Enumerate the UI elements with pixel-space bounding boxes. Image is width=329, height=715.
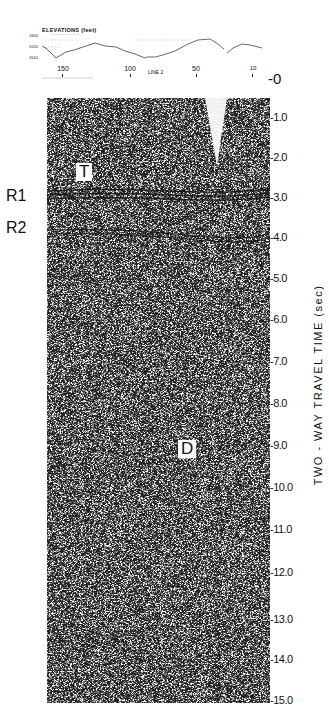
tick-2: -2.0 [270,151,287,163]
reflector-label-r1: R1 [6,187,26,205]
tick-6: -6.0 [270,313,287,325]
seismic-texture [47,98,270,703]
tick-13: -13.0 [270,613,293,625]
shotpoint-label-150: 150 [53,65,73,72]
tick-4: -4.0 [270,231,287,243]
tick-11: -11.0 [270,523,292,535]
marker-t: T [76,163,92,181]
shotpoint-label-100: 100 [120,65,140,72]
zero-time-label: -0 [268,70,281,87]
shotpoint-tick-10 [252,74,253,77]
tick-8: -8.0 [270,397,287,409]
marker-d: D [178,440,196,458]
shotpoint-label-10: 10 [243,65,263,71]
shotpoint-label-50: 50 [186,65,206,72]
tick-7: -7.0 [270,355,287,367]
tick-14: -14.0 [270,653,293,665]
tick-1: -1.0 [270,111,287,123]
line-name-label: LINE 2 [148,69,163,75]
shotpoint-tick-100 [130,74,131,77]
shotpoint-tick-150 [62,74,63,77]
tick-12: -12.0 [270,566,293,578]
tick-15: -15.0 [270,694,293,706]
tick-10: -10.0 [270,481,293,493]
axis-title: TWO - WAY TRAVEL TIME (sec) [312,285,324,486]
tick-3: -3.0 [270,191,287,203]
tick-5: -5.0 [270,272,287,284]
seismic-section [47,98,270,703]
tick-9: -9.0 [270,439,287,451]
reflector-label-r2: R2 [6,219,26,237]
shotpoint-tick-50 [196,74,197,77]
